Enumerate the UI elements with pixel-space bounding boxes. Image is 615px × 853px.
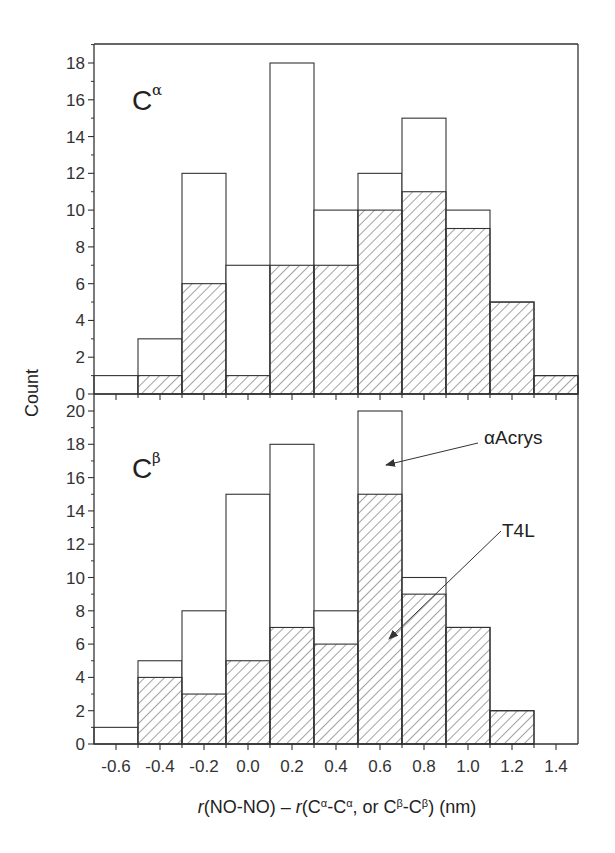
y-tick-label: 16	[66, 469, 85, 488]
x-axis-label: r(NO-NO) – r(Cα-Cα, or Cβ-Cβ) (nm)	[198, 797, 476, 817]
bar-t4l	[226, 376, 270, 394]
y-tick-label: 18	[66, 435, 85, 454]
y-axis-label: Count	[22, 369, 42, 417]
y-tick-label: 12	[66, 535, 85, 554]
panel-label: C	[132, 453, 152, 484]
bar-t4l	[358, 494, 402, 744]
y-tick-label: 16	[66, 91, 85, 110]
bar-t4l	[314, 644, 358, 744]
x-tick-label: 0.4	[324, 757, 348, 776]
y-tick-label: 6	[76, 275, 85, 294]
bar-t4l	[490, 711, 534, 744]
x-tick-label: 1.2	[500, 757, 524, 776]
annotation-acrys: αAcrys	[386, 427, 542, 465]
x-tick-label: 0.2	[280, 757, 304, 776]
y-tick-label: 0	[76, 735, 85, 754]
y-tick-label: 8	[76, 238, 85, 257]
x-tick-label: 1.0	[456, 757, 480, 776]
y-tick-label: 12	[66, 164, 85, 183]
x-tick-label: 0.0	[236, 757, 260, 776]
x-tick-label: 1.4	[544, 757, 568, 776]
y-tick-label: 8	[76, 602, 85, 621]
y-tick-label: 4	[76, 311, 85, 330]
panel-label-superscript: β	[152, 449, 161, 467]
annotation-t4l-label: T4L	[502, 520, 535, 541]
y-tick-label: 6	[76, 635, 85, 654]
bar-t4l	[314, 265, 358, 394]
bar-t4l	[182, 284, 226, 394]
panel-label-superscript: α	[152, 81, 162, 99]
bar-t4l	[138, 677, 182, 744]
bar-t4l	[446, 627, 490, 744]
bar-acrys	[226, 265, 270, 394]
histogram-figure: 024681012141618Cα 02468101214161820Cβ -0…	[0, 0, 615, 853]
bar-t4l	[226, 661, 270, 744]
y-tick-label: 18	[66, 54, 85, 73]
y-tick-label: 14	[66, 128, 85, 147]
x-tick-label: 0.8	[412, 757, 436, 776]
panel-label: C	[132, 85, 152, 116]
y-tick-label: 14	[66, 502, 85, 521]
bar-t4l	[490, 302, 534, 394]
y-tick-label: 10	[66, 201, 85, 220]
x-tick-label: -0.6	[101, 757, 130, 776]
y-tick-label: 2	[76, 702, 85, 721]
bar-acrys	[94, 727, 138, 744]
x-tick-labels: -0.6-0.4-0.20.00.20.40.60.81.01.21.4	[101, 757, 567, 776]
bar-t4l	[270, 265, 314, 394]
x-tick-label: -0.2	[189, 757, 218, 776]
x-tick-label: 0.6	[368, 757, 392, 776]
bar-t4l	[402, 192, 446, 394]
y-tick-label: 2	[76, 348, 85, 367]
bar-t4l	[358, 210, 402, 394]
bar-t4l	[446, 229, 490, 395]
bar-acrys	[94, 376, 138, 394]
bar-t4l	[138, 376, 182, 394]
bar-t4l	[534, 376, 578, 394]
top-panel-c-alpha: 024681012141618Cα	[66, 45, 578, 404]
annotation-acrys-label: αAcrys	[484, 427, 542, 448]
bottom-panel-c-beta: 02468101214161820Cβ	[66, 402, 556, 754]
x-tick-label: -0.4	[145, 757, 174, 776]
bar-t4l	[182, 694, 226, 744]
y-tick-label: 4	[76, 668, 85, 687]
bar-t4l	[270, 627, 314, 744]
y-tick-label: 20	[66, 402, 85, 421]
bar-t4l	[402, 594, 446, 744]
y-tick-label: 10	[66, 569, 85, 588]
